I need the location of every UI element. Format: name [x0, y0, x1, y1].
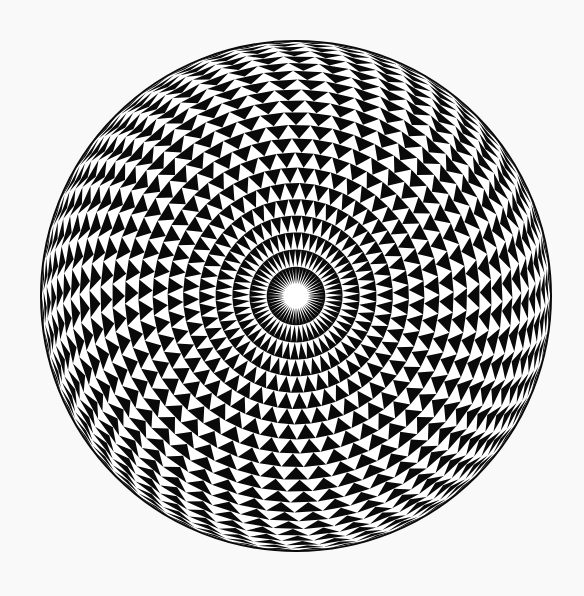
torus-triangle-rosette	[0, 0, 584, 596]
center-hole	[284, 284, 308, 308]
